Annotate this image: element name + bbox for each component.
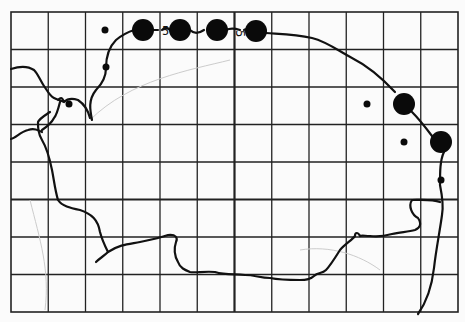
record-dot-small	[438, 177, 445, 184]
map-label: 5	[162, 24, 169, 38]
record-dots	[66, 19, 453, 184]
west-estuary	[11, 67, 90, 139]
record-dot-small	[102, 27, 109, 34]
record-dot-small	[364, 101, 371, 108]
map-label: 5	[233, 30, 247, 37]
record-dot-large	[206, 19, 228, 41]
record-dot-small	[66, 101, 73, 108]
distribution-map: 55	[0, 0, 465, 322]
record-dot-large	[393, 93, 415, 115]
south-coast	[96, 200, 440, 280]
record-dot-large	[245, 20, 267, 42]
map-grid	[11, 12, 458, 312]
record-dot-large	[169, 19, 191, 41]
record-dot-large	[430, 131, 452, 153]
coastline	[11, 28, 444, 314]
record-dot-small	[103, 64, 110, 71]
north-coast	[90, 28, 395, 120]
record-dot-large	[132, 19, 154, 41]
record-dot-small	[401, 139, 408, 146]
